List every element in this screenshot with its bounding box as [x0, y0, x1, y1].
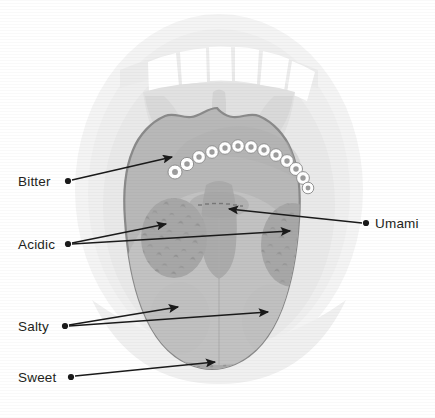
leader-dot-umami	[363, 220, 369, 226]
label-acidic: Acidic	[18, 237, 55, 252]
leader-dot-acidic	[65, 241, 71, 247]
leader-dot-bitter	[65, 178, 71, 184]
label-salty: Salty	[18, 319, 49, 334]
label-bitter: Bitter	[18, 174, 51, 189]
label-sweet: Sweet	[18, 370, 57, 385]
diagram-canvas: BitterAcidicSaltySweetUmami	[0, 0, 435, 418]
scanline-overlay	[0, 0, 435, 418]
leader-dot-salty	[62, 323, 68, 329]
leader-dot-sweet	[68, 374, 74, 380]
tongue-taste-diagram: BitterAcidicSaltySweetUmami	[0, 0, 435, 418]
label-umami: Umami	[375, 216, 419, 231]
